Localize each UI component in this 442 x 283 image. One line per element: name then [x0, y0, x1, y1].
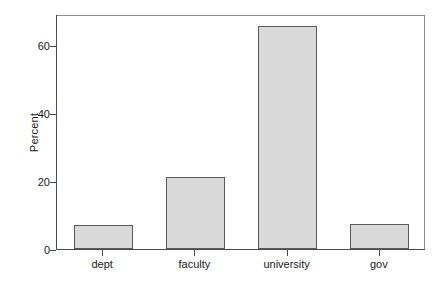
- bar-university: [258, 26, 317, 249]
- x-axis-tick-mark: [102, 250, 103, 256]
- x-axis-tick-label: gov: [370, 258, 388, 270]
- bar-chart: Percent 0204060 deptfacultyuniversitygov: [0, 0, 442, 283]
- x-axis-tick-mark: [287, 250, 288, 256]
- x-axis-tick-mark: [194, 250, 195, 256]
- y-axis-tick-label: 20: [32, 176, 50, 188]
- bar-gov: [350, 224, 409, 249]
- bar-faculty: [166, 177, 225, 249]
- x-axis-tick-labels: deptfacultyuniversitygov: [56, 258, 425, 276]
- y-axis-tick-label: 0: [32, 244, 50, 256]
- bar-dept: [74, 225, 133, 249]
- x-axis-tick-label: university: [263, 258, 309, 270]
- y-axis-tick-label: 40: [32, 108, 50, 120]
- x-axis-ticks: [56, 250, 425, 256]
- y-axis-tick-label: 60: [32, 40, 50, 52]
- y-axis-tick-labels: 0204060: [32, 0, 50, 283]
- x-axis-tick-label: faculty: [178, 258, 210, 270]
- x-axis-tick-label: dept: [91, 258, 112, 270]
- plot-area: [56, 15, 425, 250]
- x-axis-tick-mark: [379, 250, 380, 256]
